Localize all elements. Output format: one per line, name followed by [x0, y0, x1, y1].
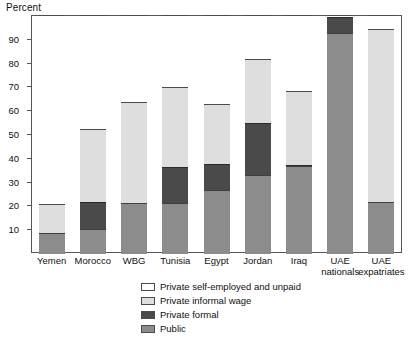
legend-swatch-icon — [141, 297, 155, 305]
x-label-line1: Iraq — [291, 255, 307, 266]
y-axis-tick-label: 10 — [8, 224, 19, 235]
legend-item-private-self-employed-and-unpaid[interactable]: Private self-employed and unpaid — [141, 281, 301, 292]
segment-public — [162, 203, 188, 254]
segment-private-informal-wage — [162, 87, 188, 167]
x-label-line1: UAE — [330, 255, 350, 266]
x-label-line1: Tunisia — [160, 255, 190, 266]
stacked-bar-chart: Percent 102030405060708090 YemenMoroccoW… — [0, 0, 410, 348]
y-axis-tick-label: 50 — [8, 129, 19, 140]
segment-public — [286, 166, 312, 254]
x-label-line1: UAE — [372, 255, 392, 266]
x-label-line1: WBG — [123, 255, 146, 266]
legend-swatch-icon — [141, 325, 155, 333]
segment-private-informal-wage — [286, 91, 312, 165]
bar-tunisia[interactable] — [162, 15, 188, 253]
segment-public — [327, 33, 353, 254]
segment-private-self-employed — [162, 16, 188, 87]
bar-uae-nationals[interactable] — [327, 15, 353, 253]
segment-public — [121, 203, 147, 254]
legend-swatch-icon — [141, 311, 155, 319]
x-label-line2: expatriates — [355, 266, 408, 277]
segment-public — [245, 175, 271, 254]
x-label-line1: Jordan — [243, 255, 272, 266]
legend-label: Private formal — [160, 309, 219, 320]
bar-uae-expatriates[interactable] — [368, 15, 394, 253]
bar-yemen[interactable] — [39, 15, 65, 253]
segment-private-formal — [162, 167, 188, 203]
segment-private-self-employed — [121, 16, 147, 102]
segment-public — [368, 202, 394, 254]
y-axis-tick-label: 40 — [8, 152, 19, 163]
segment-private-informal-wage — [39, 204, 65, 233]
x-label-line1: Egypt — [204, 255, 228, 266]
y-axis-tick-label: 20 — [8, 200, 19, 211]
segment-private-formal — [245, 123, 271, 175]
segment-private-self-employed — [368, 16, 394, 29]
segment-private-self-employed — [245, 16, 271, 59]
segment-public — [39, 233, 65, 254]
y-axis-tick-label: 70 — [8, 81, 19, 92]
x-label-line1: Morocco — [75, 255, 111, 266]
legend-label: Public — [160, 323, 186, 334]
segment-private-formal — [80, 202, 106, 229]
segment-private-informal-wage — [204, 104, 230, 164]
y-axis-tick-label: 60 — [8, 105, 19, 116]
y-axis-tick-label: 30 — [8, 176, 19, 187]
legend-label: Private self-employed and unpaid — [160, 281, 301, 292]
legend-swatch-icon — [141, 283, 155, 291]
legend-item-private-formal[interactable]: Private formal — [141, 309, 219, 320]
segment-private-self-employed — [204, 16, 230, 104]
segment-private-self-employed — [286, 16, 312, 91]
x-label-line1: Yemen — [37, 255, 66, 266]
segment-private-informal-wage — [368, 29, 394, 202]
segment-public — [80, 229, 106, 254]
segment-private-informal-wage — [121, 102, 147, 203]
bar-jordan[interactable] — [245, 15, 271, 253]
segment-private-formal — [327, 17, 353, 32]
bar-egypt[interactable] — [204, 15, 230, 253]
x-axis-label-uae-expatriates: UAEexpatriates — [355, 255, 408, 277]
legend-label: Private informal wage — [160, 295, 251, 306]
bar-morocco[interactable] — [80, 15, 106, 253]
x-axis-labels: YemenMoroccoWBGTunisiaEgyptJordanIraqUAE… — [31, 255, 402, 281]
segment-public — [204, 190, 230, 254]
legend-item-private-informal-wage[interactable]: Private informal wage — [141, 295, 251, 306]
bar-wbg[interactable] — [121, 15, 147, 253]
chart-legend: Private self-employed and unpaidPrivate … — [0, 281, 410, 348]
segment-private-self-employed — [80, 16, 106, 129]
y-axis-tick-label: 80 — [8, 57, 19, 68]
bar-iraq[interactable] — [286, 15, 312, 253]
segment-private-informal-wage — [245, 59, 271, 123]
segment-private-self-employed — [39, 16, 65, 204]
legend-item-public[interactable]: Public — [141, 323, 186, 334]
segment-private-formal — [204, 164, 230, 190]
bars-layer — [31, 15, 402, 253]
segment-private-informal-wage — [80, 129, 106, 202]
y-axis-tick-label: 90 — [8, 33, 19, 44]
